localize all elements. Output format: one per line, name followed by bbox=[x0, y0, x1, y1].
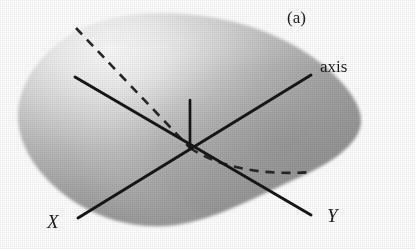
axis-label: axis bbox=[320, 58, 347, 75]
x-axis-label: X bbox=[47, 212, 59, 231]
figure-canvas bbox=[0, 0, 415, 249]
figure-panel-a: (a) axis X Y bbox=[0, 0, 415, 249]
panel-label: (a) bbox=[287, 9, 306, 26]
y-axis-label: Y bbox=[327, 206, 338, 225]
